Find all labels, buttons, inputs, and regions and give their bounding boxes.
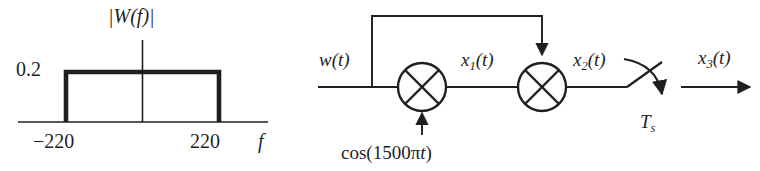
sampler-period-sub: s	[651, 121, 656, 135]
sampler-period-label: Ts	[640, 112, 655, 134]
figure-root: |W(f)| 0.2 −220 220 f w(t) x1(t) x2(t) x…	[0, 0, 760, 171]
spectrum-xtick-left: −220	[33, 131, 74, 151]
oscillator-fn: cos(	[341, 142, 373, 163]
input-signal-label: w(t)	[319, 50, 350, 69]
oscillator-close: )	[426, 142, 432, 163]
spectrum-plot	[18, 40, 268, 122]
spectrum-x-axis-label: f	[258, 131, 264, 151]
sampler-switch	[624, 59, 662, 94]
oscillator-pi: π	[411, 142, 421, 163]
spectrum-y-axis-label: |W(f)|	[108, 6, 155, 26]
signal-x3-suffix: (t)	[713, 47, 731, 68]
multiplier-mixer-1	[398, 63, 446, 111]
wire-feedback-branch	[372, 16, 542, 87]
signal-x2-suffix: (t)	[588, 49, 606, 70]
spectrum-amplitude-label: 0.2	[16, 59, 41, 79]
signal-x3-label: x3(t)	[698, 48, 731, 70]
spectrum-xtick-right: 220	[190, 131, 220, 151]
signal-x2-label: x2(t)	[573, 50, 606, 72]
multiplier-mixer-2	[518, 63, 566, 111]
sampler-period-base: T	[640, 111, 651, 132]
block-diagram	[318, 16, 750, 135]
signal-x1-suffix: (t)	[476, 49, 494, 70]
oscillator-label: cos(1500πt)	[341, 143, 432, 162]
signal-x1-label: x1(t)	[461, 50, 494, 72]
oscillator-frequency: 1500	[373, 142, 411, 163]
